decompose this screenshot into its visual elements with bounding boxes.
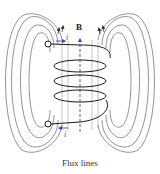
- solenoid-diagram: B i i: [0, 0, 160, 174]
- current-label-bottom: i: [64, 130, 66, 139]
- coil: [45, 41, 110, 127]
- left-flux-lines: [6, 14, 63, 153]
- figure-caption: Flux lines: [0, 158, 160, 168]
- current-label-top: i: [66, 33, 68, 42]
- right-flux-lines: [98, 14, 155, 153]
- b-field-label: B: [76, 22, 82, 32]
